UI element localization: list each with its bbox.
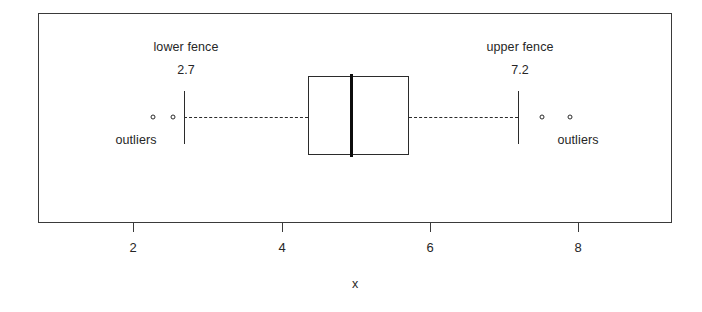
outlier-point [151, 115, 156, 120]
outliers-right-label: outliers [557, 133, 598, 147]
axis-tick-6 [430, 223, 431, 232]
upper-fence-cap [518, 91, 519, 144]
outlier-point [540, 115, 545, 120]
axis-tick-4 [282, 223, 283, 232]
lower-fence-cap [184, 91, 185, 144]
x-axis-title: x [352, 277, 358, 291]
outlier-point [568, 115, 573, 120]
iqr-box [308, 76, 409, 155]
median-line [350, 74, 353, 157]
lower-fence-value: 2.7 [177, 63, 195, 77]
axis-tick-label-4: 4 [278, 240, 285, 255]
axis-tick-8 [578, 223, 579, 232]
upper-fence-value: 7.2 [511, 63, 529, 77]
lower-fence-label: lower fence [153, 40, 218, 54]
outliers-left-label: outliers [115, 133, 156, 147]
boxplot-figure: lower fence 2.7 upper fence 7.2 outliers… [0, 0, 702, 312]
upper-whisker-line [409, 117, 518, 118]
axis-tick-2 [133, 223, 134, 232]
axis-tick-label-6: 6 [426, 240, 433, 255]
outlier-point [171, 115, 176, 120]
upper-fence-label: upper fence [486, 40, 553, 54]
lower-whisker-line [184, 117, 308, 118]
axis-tick-label-2: 2 [129, 240, 136, 255]
axis-tick-label-8: 8 [574, 240, 581, 255]
